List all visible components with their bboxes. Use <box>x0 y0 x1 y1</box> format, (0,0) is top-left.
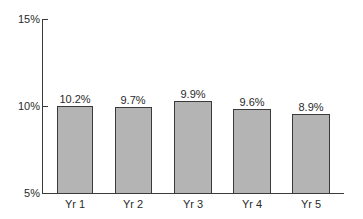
bar-value-label-yr-1: 10.2% <box>50 93 100 105</box>
bar-chart: 15% 10% 5% 10.2% 9.7% 9.9% 9.6% 8.9% Yr … <box>0 0 363 219</box>
y-tick-10 <box>42 106 48 107</box>
x-category-label-yr-1: Yr 1 <box>50 198 100 210</box>
x-category-label-yr-3: Yr 3 <box>168 198 218 210</box>
x-category-label-yr-5: Yr 5 <box>286 198 336 210</box>
bar-value-label-yr-5: 8.9% <box>286 101 336 113</box>
y-tick-label-5: 5% <box>2 187 40 199</box>
bar-yr-3 <box>174 101 212 193</box>
x-category-label-yr-4: Yr 4 <box>227 198 277 210</box>
bar-yr-2 <box>115 107 152 193</box>
bar-yr-5 <box>292 114 330 193</box>
y-tick-label-15: 15% <box>2 13 40 25</box>
bar-value-label-yr-4: 9.6% <box>227 96 277 108</box>
bar-value-label-yr-2: 9.7% <box>108 94 158 106</box>
x-category-label-yr-2: Yr 2 <box>108 198 158 210</box>
bar-yr-4 <box>233 109 271 193</box>
y-tick-15 <box>42 19 48 20</box>
bar-yr-1 <box>57 106 93 193</box>
x-axis-line <box>42 193 344 194</box>
y-tick-label-10: 10% <box>2 100 40 112</box>
bar-value-label-yr-3: 9.9% <box>168 88 218 100</box>
